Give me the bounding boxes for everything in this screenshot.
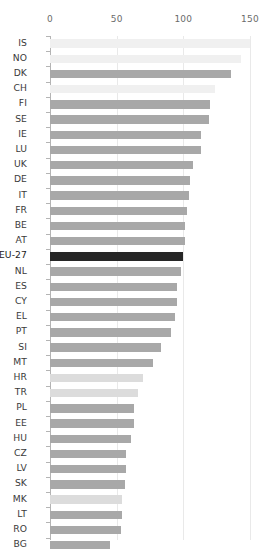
bar-CY[interactable] <box>50 298 177 306</box>
category-label-EE: EE <box>15 417 27 428</box>
bar-EU-27[interactable] <box>50 252 183 260</box>
bar-row[interactable]: SE <box>50 112 250 127</box>
bar-LT[interactable] <box>50 511 122 519</box>
y-axis-tick <box>46 97 50 98</box>
bar-row[interactable]: PT <box>50 325 250 340</box>
bar-row[interactable]: SI <box>50 340 250 355</box>
bar-row[interactable]: RO <box>50 522 250 537</box>
bar-BE[interactable] <box>50 222 185 230</box>
bar-row[interactable]: LV <box>50 462 250 477</box>
bar-PL[interactable] <box>50 404 134 412</box>
category-label-NO: NO <box>13 52 27 63</box>
bar-row[interactable]: FI <box>50 97 250 112</box>
bar-BG[interactable] <box>50 541 110 549</box>
y-axis-tick <box>46 462 50 463</box>
bar-row[interactable]: LT <box>50 507 250 522</box>
category-label-FI: FI <box>19 97 27 108</box>
bar-DK[interactable] <box>50 70 231 78</box>
category-label-HR: HR <box>14 371 28 382</box>
bar-row[interactable]: CZ <box>50 446 250 461</box>
category-label-PL: PL <box>16 401 27 412</box>
plot-area: ISNODKCHFISEIELUUKDEITFRBEATEU-27NLESCYE… <box>50 36 250 540</box>
bar-CZ[interactable] <box>50 450 126 458</box>
bar-row[interactable]: UK <box>50 158 250 173</box>
bar-FI[interactable] <box>50 100 210 108</box>
bar-row[interactable]: HR <box>50 370 250 385</box>
bar-row[interactable]: CY <box>50 294 250 309</box>
bar-IE[interactable] <box>50 131 201 139</box>
bar-FR[interactable] <box>50 207 187 215</box>
bar-row[interactable]: ES <box>50 279 250 294</box>
bar-row[interactable]: FR <box>50 203 250 218</box>
bar-NO[interactable] <box>50 55 241 63</box>
bar-row[interactable]: IS <box>50 36 250 51</box>
bar-EL[interactable] <box>50 313 175 321</box>
category-label-ES: ES <box>15 280 27 291</box>
bar-row[interactable]: DE <box>50 173 250 188</box>
bar-LV[interactable] <box>50 465 126 473</box>
bar-row[interactable]: BG <box>50 538 250 553</box>
bar-MT[interactable] <box>50 359 153 367</box>
bar-row[interactable]: DK <box>50 66 250 81</box>
bar-HU[interactable] <box>50 435 131 443</box>
y-axis-tick <box>46 188 50 189</box>
category-label-PT: PT <box>16 325 27 336</box>
bar-SE[interactable] <box>50 115 209 123</box>
category-label-HU: HU <box>13 432 27 443</box>
bar-row[interactable]: EL <box>50 310 250 325</box>
bar-row[interactable]: NO <box>50 51 250 66</box>
bar-IT[interactable] <box>50 191 189 199</box>
bar-UK[interactable] <box>50 161 193 169</box>
y-axis-tick <box>46 492 50 493</box>
bar-PT[interactable] <box>50 328 171 336</box>
bar-row[interactable]: NL <box>50 264 250 279</box>
y-axis-tick <box>46 355 50 356</box>
bar-row[interactable]: HU <box>50 431 250 446</box>
bar-SK[interactable] <box>50 480 125 488</box>
category-label-IE: IE <box>18 128 27 139</box>
bar-row[interactable]: LU <box>50 142 250 157</box>
bar-row[interactable]: PL <box>50 401 250 416</box>
bar-ES[interactable] <box>50 283 177 291</box>
bar-IS[interactable] <box>50 39 250 47</box>
bar-AT[interactable] <box>50 237 185 245</box>
x-axis-tick-50: 50 <box>111 14 123 24</box>
y-axis-tick <box>46 294 50 295</box>
bar-RO[interactable] <box>50 526 121 534</box>
bar-row[interactable]: IE <box>50 127 250 142</box>
category-label-FR: FR <box>15 204 27 215</box>
bar-NL[interactable] <box>50 267 181 275</box>
y-axis-tick <box>46 218 50 219</box>
y-axis-tick <box>46 127 50 128</box>
category-label-TR: TR <box>15 386 27 397</box>
y-axis-tick <box>46 203 50 204</box>
bar-HR[interactable] <box>50 374 143 382</box>
bar-row[interactable]: MK <box>50 492 250 507</box>
gridline-150 <box>250 36 251 540</box>
y-axis-tick <box>46 386 50 387</box>
bar-row[interactable]: AT <box>50 234 250 249</box>
bar-LU[interactable] <box>50 146 201 154</box>
bar-EE[interactable] <box>50 419 134 427</box>
bar-row[interactable]: MT <box>50 355 250 370</box>
y-axis-tick <box>46 66 50 67</box>
horizontal-bar-chart: 050100150 ISNODKCHFISEIELUUKDEITFRBEATEU… <box>0 0 269 555</box>
bar-row[interactable]: EE <box>50 416 250 431</box>
category-label-CZ: CZ <box>14 447 27 458</box>
y-axis-tick <box>46 310 50 311</box>
bar-DE[interactable] <box>50 176 190 184</box>
bar-row[interactable]: IT <box>50 188 250 203</box>
bar-TR[interactable] <box>50 389 138 397</box>
bar-row[interactable]: EU-27 <box>50 249 250 264</box>
bar-CH[interactable] <box>50 85 215 93</box>
category-label-UK: UK <box>14 158 27 169</box>
bar-MK[interactable] <box>50 495 122 503</box>
bar-SI[interactable] <box>50 343 161 351</box>
bar-row[interactable]: BE <box>50 218 250 233</box>
bar-row[interactable]: CH <box>50 82 250 97</box>
y-axis-tick <box>46 538 50 539</box>
bar-row[interactable]: SK <box>50 477 250 492</box>
category-label-RO: RO <box>13 523 27 534</box>
category-label-LT: LT <box>17 508 27 519</box>
bar-row[interactable]: TR <box>50 386 250 401</box>
